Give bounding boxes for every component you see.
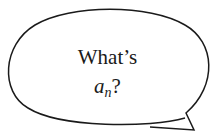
question-mark: ? [112, 74, 121, 98]
variable-a: a [94, 74, 105, 98]
subscript-n: n [105, 85, 112, 100]
bubble-text-question: What’s [0, 45, 215, 70]
bubble-text-variable: an? [0, 74, 215, 99]
